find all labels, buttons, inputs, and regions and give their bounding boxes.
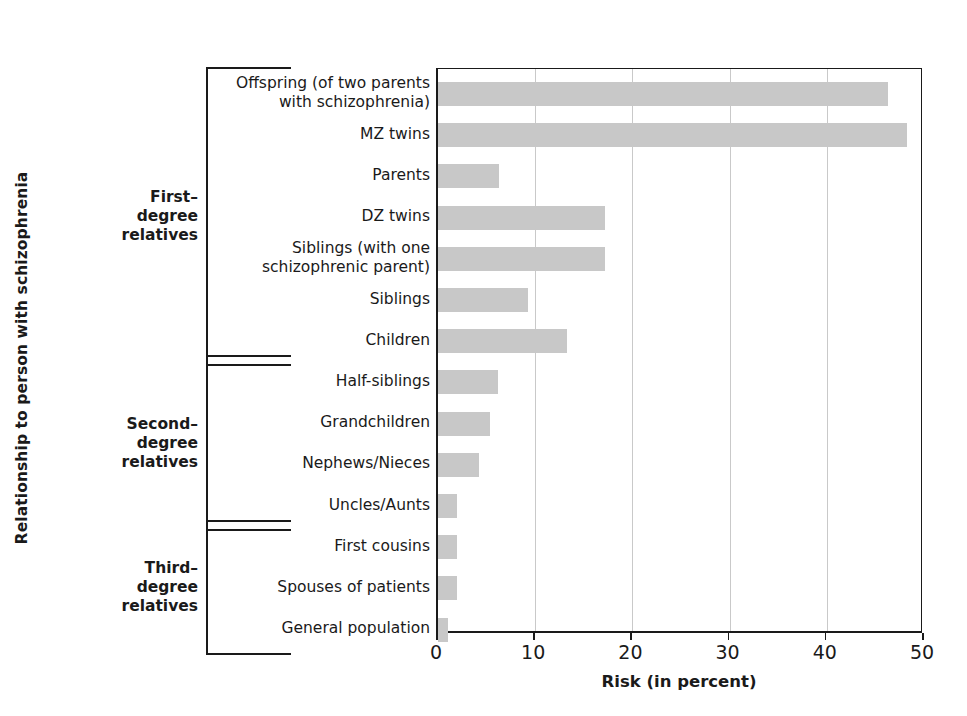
- bar: [438, 535, 457, 559]
- x-tick-mark: [533, 633, 535, 640]
- x-tick-mark: [630, 633, 632, 640]
- bar: [438, 164, 499, 188]
- plot-area: [436, 68, 922, 633]
- category-label: Half-siblings: [130, 372, 430, 391]
- bar: [438, 494, 457, 518]
- bar: [438, 576, 457, 600]
- bar: [438, 329, 567, 353]
- bar: [438, 412, 490, 436]
- category-label: First cousins: [130, 537, 430, 556]
- x-tick-label: 40: [795, 641, 855, 663]
- bar: [438, 288, 528, 312]
- bar: [438, 618, 448, 642]
- gridline-30: [730, 69, 731, 631]
- category-label: Uncles/Aunts: [130, 496, 430, 515]
- bar: [438, 206, 605, 230]
- gridline-20: [632, 69, 633, 631]
- bar: [438, 82, 888, 106]
- category-label: DZ twins: [130, 207, 430, 226]
- category-label: General population: [130, 619, 430, 638]
- gridline-40: [827, 69, 828, 631]
- x-tick-label: 20: [600, 641, 660, 663]
- x-tick-mark: [922, 633, 924, 640]
- x-tick-label: 10: [503, 641, 563, 663]
- category-label: Parents: [130, 166, 430, 185]
- category-label: Offspring (of two parents with schizophr…: [130, 74, 430, 112]
- category-label: Nephews/Nieces: [130, 454, 430, 473]
- bar: [438, 247, 605, 271]
- bar: [438, 123, 907, 147]
- x-tick-mark: [728, 633, 730, 640]
- x-tick-label: 0: [406, 641, 466, 663]
- x-axis-title: Risk (in percent): [436, 672, 922, 691]
- bar: [438, 370, 498, 394]
- category-label: Grandchildren: [130, 413, 430, 432]
- x-tick-mark: [825, 633, 827, 640]
- x-tick-label: 30: [698, 641, 758, 663]
- category-label: Spouses of patients: [130, 578, 430, 597]
- y-axis-title: Relationship to person with schizophreni…: [0, 0, 44, 716]
- category-label: Siblings: [130, 290, 430, 309]
- category-label: Children: [130, 331, 430, 350]
- x-tick-mark: [436, 633, 438, 640]
- bar: [438, 453, 479, 477]
- category-label: Siblings (with one schizophrenic parent): [130, 239, 430, 277]
- x-tick-label: 50: [892, 641, 952, 663]
- category-label: MZ twins: [130, 125, 430, 144]
